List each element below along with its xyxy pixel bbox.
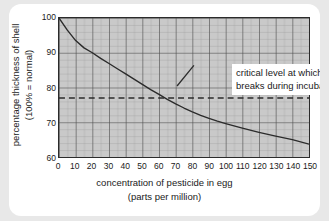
annotation-line1: critical level at which shell	[236, 66, 320, 79]
y-tick-label-90: 90	[30, 47, 56, 57]
chart-figure: percentage thickness of shell (100% = no…	[9, 4, 320, 216]
y-tick-label-70: 70	[30, 118, 56, 128]
annotation-line2: breaks during incubation	[236, 79, 320, 92]
x-axis-title-line1: concentration of pesticide in egg	[96, 177, 232, 188]
x-axis-title-line2: (parts per million)	[9, 190, 320, 204]
chart-card: percentage thickness of shell (100% = no…	[9, 4, 320, 216]
y-axis-title-line1: percentage thickness of shell	[10, 24, 21, 147]
y-tick-label-80: 80	[30, 83, 56, 93]
plot-area: critical level at which shell breaks dur…	[58, 17, 310, 158]
x-axis-title: concentration of pesticide in egg (parts…	[9, 176, 320, 203]
x-tick-label-150: 150	[298, 161, 320, 171]
critical-level-annotation: critical level at which shell breaks dur…	[232, 64, 320, 95]
y-tick-label-100: 100	[30, 12, 56, 22]
